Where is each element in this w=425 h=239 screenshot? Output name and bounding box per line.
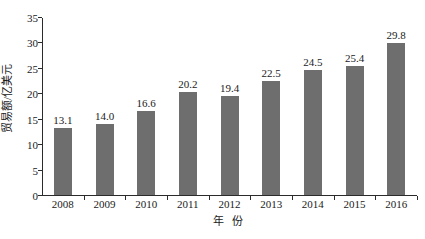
x-axis-title: 年 份 bbox=[42, 216, 417, 227]
bar bbox=[96, 124, 114, 195]
x-axis-tick-label: 2009 bbox=[83, 199, 127, 210]
x-axis-tick-label: 2012 bbox=[208, 199, 252, 210]
y-axis-tick-label: 15 bbox=[12, 114, 38, 125]
y-axis-tick-mark bbox=[38, 170, 42, 171]
y-axis-tick-mark bbox=[38, 42, 42, 43]
x-axis-tick-labels: 200820092010201120122013201420152016 bbox=[42, 199, 417, 213]
y-axis-tick-mark bbox=[38, 93, 42, 94]
bar-value-label: 20.2 bbox=[168, 79, 208, 90]
bar bbox=[54, 128, 72, 195]
bar-value-label: 25.4 bbox=[335, 53, 375, 64]
bar-chart: 贸易额/亿美元 05101520253035 13.114.016.620.21… bbox=[0, 0, 425, 239]
bar bbox=[179, 92, 197, 195]
y-axis-tick-label: 5 bbox=[12, 165, 38, 176]
y-axis-tick-mark bbox=[38, 68, 42, 69]
bar-value-label: 24.5 bbox=[293, 57, 333, 68]
y-axis-tick-label: 0 bbox=[12, 191, 38, 202]
bar bbox=[304, 70, 322, 195]
bar bbox=[387, 43, 405, 195]
bar bbox=[221, 96, 239, 195]
y-axis-tick-label: 30 bbox=[12, 38, 38, 49]
x-axis-title-text: 年 份 bbox=[213, 215, 247, 227]
y-axis-tick-label: 10 bbox=[12, 140, 38, 151]
bar-value-label: 22.5 bbox=[251, 68, 291, 79]
bar bbox=[262, 81, 280, 195]
bar-value-label: 19.4 bbox=[210, 83, 250, 94]
bar-value-label: 16.6 bbox=[126, 98, 166, 109]
bar-value-label: 13.1 bbox=[43, 115, 83, 126]
y-axis-tick-labels: 05101520253035 bbox=[12, 0, 38, 239]
y-axis-tick-mark bbox=[38, 17, 42, 18]
y-axis-tick-mark bbox=[38, 119, 42, 120]
y-axis-tick-label: 25 bbox=[12, 63, 38, 74]
x-axis-line bbox=[42, 195, 417, 196]
y-axis-tick-mark bbox=[38, 144, 42, 145]
y-axis-line bbox=[42, 18, 43, 196]
x-axis-tick-label: 2013 bbox=[249, 199, 293, 210]
x-axis-tick-label: 2016 bbox=[374, 199, 418, 210]
y-axis-tick-mark bbox=[38, 195, 42, 196]
bar-value-label: 14.0 bbox=[85, 111, 125, 122]
bar bbox=[137, 111, 155, 195]
bar bbox=[346, 66, 364, 195]
x-axis-tick-label: 2008 bbox=[41, 199, 85, 210]
x-axis-tick-label: 2014 bbox=[291, 199, 335, 210]
bar-value-label: 29.8 bbox=[376, 30, 416, 41]
x-axis-tick-label: 2015 bbox=[333, 199, 377, 210]
x-axis-tick-label: 2010 bbox=[124, 199, 168, 210]
x-axis-tick-label: 2011 bbox=[166, 199, 210, 210]
plot-area: 13.114.016.620.219.422.524.525.429.8 bbox=[42, 18, 417, 196]
y-axis-tick-label: 35 bbox=[12, 13, 38, 24]
y-axis-tick-label: 20 bbox=[12, 89, 38, 100]
